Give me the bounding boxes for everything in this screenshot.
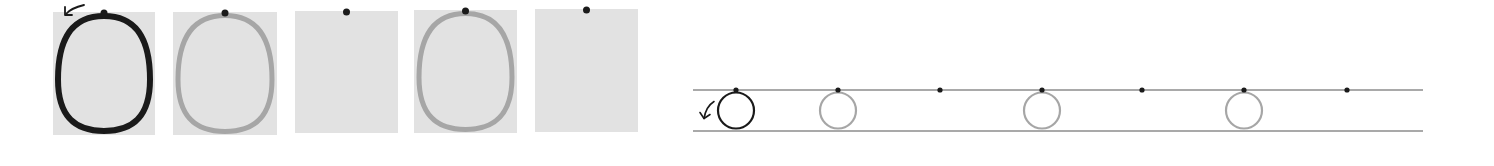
line-letter-slot-1	[700, 87, 754, 128]
trace-letter-o	[1226, 93, 1262, 129]
start-dot-icon	[835, 87, 840, 92]
line-letter-slot-5	[1139, 87, 1144, 92]
trace-letter-o	[1024, 93, 1060, 129]
model-letter-o	[718, 93, 754, 129]
start-dot-icon	[937, 87, 942, 92]
start-dot-icon	[1139, 87, 1144, 92]
start-dot-icon	[1344, 87, 1349, 92]
start-dot-icon	[1241, 87, 1246, 92]
guide-lines-canvas	[0, 0, 1494, 166]
counterclockwise-arrow-icon	[700, 102, 714, 119]
line-letter-slot-4	[1024, 87, 1060, 128]
line-letter-slot-7	[1344, 87, 1349, 92]
trace-letter-o	[820, 93, 856, 129]
line-letter-slot-6	[1226, 87, 1262, 128]
start-dot-icon	[1039, 87, 1044, 92]
line-letter-slot-3	[937, 87, 942, 92]
line-letter-slot-2	[820, 87, 856, 128]
start-dot-icon	[733, 87, 738, 92]
